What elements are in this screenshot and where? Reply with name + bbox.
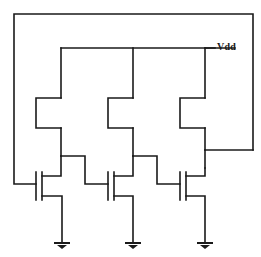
stage-3-driver-source-lead: [186, 196, 205, 243]
stage-1-driver-drain-lead: [42, 156, 61, 176]
stage-2-driver-drain-lead: [114, 156, 133, 176]
ground-triangle-2: [128, 245, 138, 249]
ground-triangle-1: [57, 245, 67, 249]
stage-2-driver-source-lead: [114, 196, 133, 243]
ground-symbol-3: [197, 243, 213, 249]
stage-3-driver-drain-lead: [186, 168, 205, 176]
node-1-wire: [61, 156, 108, 184]
node-2-wire: [133, 156, 180, 184]
ground-triangle-3: [200, 245, 210, 249]
ground-symbol-2: [125, 243, 141, 249]
stage-3-load-body: [180, 98, 205, 128]
schematic-canvas: [0, 0, 261, 257]
stage-2-load-body: [108, 98, 133, 128]
stage-1-load-body: [36, 98, 61, 128]
vdd-label: Vdd: [217, 42, 236, 52]
ground-symbol-1: [54, 243, 70, 249]
circuit-schematic: Vdd: [0, 0, 261, 257]
stage-1-driver-source-lead: [42, 196, 62, 243]
